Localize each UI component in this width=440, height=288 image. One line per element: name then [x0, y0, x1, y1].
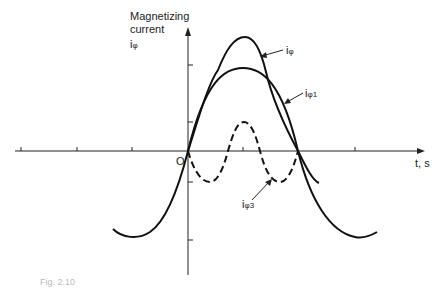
x-axis-arrow-icon — [417, 148, 425, 154]
y-axis-label-line1: Magnetizing — [130, 10, 189, 22]
i-phi3-label: iφ3 — [242, 198, 254, 212]
i-phi-label: iφ — [286, 44, 294, 58]
fundamental-curve — [113, 68, 377, 238]
y-axis-label-line2: current — [130, 23, 164, 35]
y-axis-symbol: iφ — [130, 38, 138, 52]
i-phi1-arrow-icon — [284, 98, 291, 104]
figure-caption: Fig. 2.10 — [40, 276, 75, 288]
origin-label: O — [176, 155, 185, 167]
total-current-curve — [188, 37, 319, 183]
i-phi3-pointer — [252, 181, 270, 200]
i-phi1-label: iφ1 — [305, 87, 317, 101]
x-axis-label: t, s — [415, 157, 430, 169]
y-axis-arrow-icon — [185, 27, 191, 36]
third-harmonic-curve — [188, 122, 298, 182]
